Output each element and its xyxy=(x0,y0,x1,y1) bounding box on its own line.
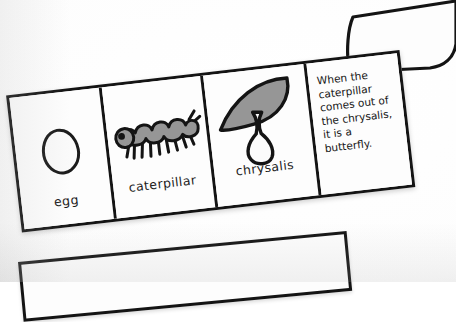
panel-egg[interactable]: egg xyxy=(9,87,116,229)
panel-butterfly-text[interactable]: When the caterpillar comes out of the ch… xyxy=(307,53,412,195)
second-paper-strip-edge xyxy=(18,231,352,322)
caterpillar-icon xyxy=(103,94,210,177)
strip-border: egg xyxy=(6,50,415,233)
panel-chrysalis[interactable]: chrysalis xyxy=(203,64,322,207)
life-cycle-strip: egg xyxy=(6,50,415,233)
egg-oval-icon xyxy=(12,112,109,192)
panel-caterpillar[interactable]: caterpillar xyxy=(101,76,218,219)
handwritten-sentence: When the caterpillar comes out of the ch… xyxy=(316,66,402,156)
panel-label-egg: egg xyxy=(21,188,112,213)
